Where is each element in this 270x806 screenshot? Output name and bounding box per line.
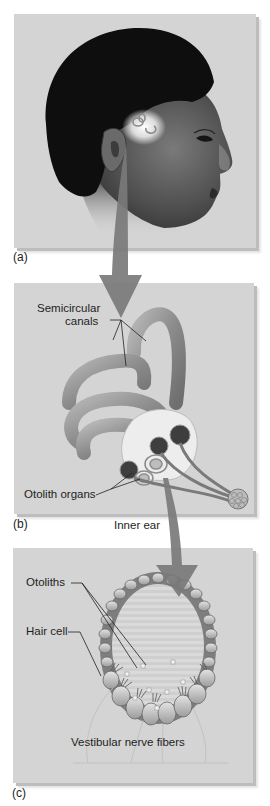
label-inner-ear: Inner ear <box>114 519 160 532</box>
panel-letter-c: (c) <box>12 786 26 800</box>
panel-b-inner-ear: Semicircular canals Otolith organs Inner… <box>14 283 254 514</box>
label-otoliths: Otoliths <box>26 576 65 589</box>
label-semicircular-canals-line1: Semicircular <box>37 302 100 315</box>
head-profile-illustration <box>14 14 256 248</box>
panel-c-otolith-organ: Otoliths Hair cell Vestibular nerve fibe… <box>13 548 253 783</box>
panel-a-head: (a) <box>14 14 256 248</box>
label-semicircular-canals-line2: canals <box>65 315 98 328</box>
label-hair-cell: Hair cell <box>26 625 68 638</box>
panel-letter-b: (b) <box>13 517 28 531</box>
inner-ear-illustration <box>14 283 254 514</box>
label-vestibular-nerve-fibers: Vestibular nerve fibers <box>71 736 185 749</box>
label-otolith-organs: Otolith organs <box>24 488 96 501</box>
panel-letter-a: (a) <box>13 250 28 264</box>
